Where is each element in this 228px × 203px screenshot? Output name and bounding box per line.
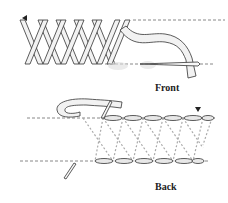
- front-thread: [120, 26, 196, 78]
- front-label: Front: [155, 82, 179, 93]
- back-stitches-top: [104, 116, 214, 121]
- back-thread: [57, 99, 122, 117]
- back-stitches-bottom: [95, 159, 204, 164]
- fabric-hole-shadow: [108, 62, 128, 70]
- back-crossing-lines: [83, 118, 212, 161]
- fabric-hole-shadow: [140, 61, 156, 69]
- front-panel: [20, 15, 225, 78]
- needle-icon: [64, 163, 76, 179]
- stitch-diagram: [0, 0, 228, 203]
- front-stitches: [20, 20, 130, 64]
- back-label: Back: [155, 181, 177, 192]
- back-panel: [20, 99, 215, 179]
- start-marker-icon: [195, 107, 201, 112]
